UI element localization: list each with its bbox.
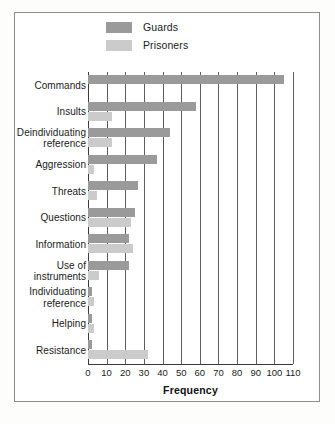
- bar: [88, 314, 92, 323]
- legend-item-prisoners: Prisoners: [106, 36, 256, 54]
- legend-swatch-guards: [106, 22, 132, 33]
- x-tick-label-0: 0: [85, 367, 90, 378]
- bar: [88, 165, 94, 174]
- bar: [88, 271, 99, 280]
- bar: [88, 191, 97, 200]
- x-axis-tick-labels: 0102030405060708090100110: [88, 367, 293, 381]
- bar: [88, 340, 92, 349]
- x-tick-label-90: 90: [250, 367, 261, 378]
- legend-swatch-prisoners: [106, 40, 132, 51]
- x-tick-label-30: 30: [139, 367, 150, 378]
- category-label-line: reference: [16, 298, 86, 310]
- category-label: Information: [16, 239, 86, 251]
- category-label-line: instruments: [16, 271, 86, 283]
- category-label: Resistance: [16, 345, 86, 357]
- bar-group: [88, 311, 293, 338]
- bar-group: [88, 152, 293, 179]
- bar: [88, 234, 129, 243]
- bar: [88, 112, 112, 121]
- category-label-line: reference: [16, 138, 86, 150]
- bar: [88, 324, 94, 333]
- category-label-line: Information: [16, 239, 86, 251]
- category-label-line: Use of: [16, 260, 86, 272]
- chart-legend: Guards Prisoners: [106, 18, 256, 54]
- category-label: Insults: [16, 106, 86, 118]
- bar: [88, 244, 133, 253]
- bar-group: [88, 99, 293, 126]
- category-label-line: Questions: [16, 212, 86, 224]
- bar: [88, 181, 138, 190]
- category-label: Deindividuatingreference: [16, 127, 86, 150]
- category-label: Use ofinstruments: [16, 260, 86, 283]
- category-label-line: Helping: [16, 318, 86, 330]
- x-tick-label-60: 60: [195, 367, 206, 378]
- bar: [88, 208, 135, 217]
- x-tick-label-10: 10: [101, 367, 112, 378]
- bar: [88, 218, 131, 227]
- x-tick-label-110: 110: [285, 367, 300, 378]
- plot-area: [88, 72, 293, 364]
- legend-label-prisoners: Prisoners: [143, 39, 188, 51]
- x-tick-label-100: 100: [266, 367, 282, 378]
- bar: [88, 102, 196, 111]
- figure-root: Guards Prisoners CommandsInsultsDeindivi…: [0, 0, 335, 424]
- legend-label-guards: Guards: [143, 21, 178, 33]
- category-label: Helping: [16, 318, 86, 330]
- category-label: Questions: [16, 212, 86, 224]
- bar: [88, 155, 157, 164]
- x-axis-title: Frequency: [88, 384, 293, 396]
- bar-group: [88, 284, 293, 311]
- category-label: Commands: [16, 80, 86, 92]
- bar: [88, 297, 94, 306]
- x-tick-label-20: 20: [120, 367, 131, 378]
- category-label-line: Deindividuating: [16, 127, 86, 139]
- bar-group: [88, 258, 293, 285]
- bar-group: [88, 178, 293, 205]
- bar: [88, 287, 92, 296]
- category-label-line: Threats: [16, 186, 86, 198]
- bar-group: [88, 231, 293, 258]
- bar-group: [88, 337, 293, 364]
- bar-group: [88, 205, 293, 232]
- bar-group: [88, 125, 293, 152]
- x-axis-line: [88, 364, 293, 365]
- category-label: Aggression: [16, 159, 86, 171]
- bar-group: [88, 72, 293, 99]
- category-label: Threats: [16, 186, 86, 198]
- bar: [88, 75, 284, 84]
- legend-item-guards: Guards: [106, 18, 256, 36]
- y-axis-category-labels: CommandsInsultsDeindividuatingreferenceA…: [16, 72, 86, 364]
- bar: [88, 138, 112, 147]
- caption-fragment: [52, 408, 252, 420]
- category-label-line: Resistance: [16, 345, 86, 357]
- category-label-line: Commands: [16, 80, 86, 92]
- bar: [88, 350, 148, 359]
- x-tick-label-40: 40: [157, 367, 168, 378]
- bar: [88, 261, 129, 270]
- category-label: Individuatingreference: [16, 286, 86, 309]
- category-label-line: Aggression: [16, 159, 86, 171]
- bar: [88, 128, 170, 137]
- category-label-line: Individuating: [16, 286, 86, 298]
- x-tick-label-50: 50: [176, 367, 187, 378]
- x-tick-label-70: 70: [213, 367, 224, 378]
- category-label-line: Insults: [16, 106, 86, 118]
- x-tick-label-80: 80: [232, 367, 243, 378]
